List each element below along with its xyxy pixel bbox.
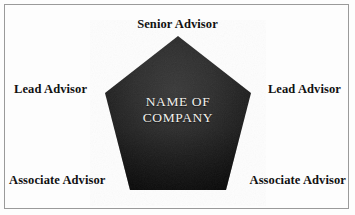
role-label-associate-advisor-right: Associate Advisor <box>250 173 347 187</box>
role-label-senior-advisor: Senior Advisor <box>0 17 355 31</box>
company-name-label: NAME OF COMPANY <box>108 94 248 125</box>
company-name-line-1: NAME OF <box>108 94 248 110</box>
role-label-lead-advisor-left: Lead Advisor <box>14 82 87 96</box>
role-label-lead-advisor-right: Lead Advisor <box>268 82 341 96</box>
diagram-canvas: NAME OF COMPANY Senior Advisor Lead Advi… <box>0 0 355 215</box>
company-name-line-2: COMPANY <box>108 110 248 126</box>
role-label-associate-advisor-left: Associate Advisor <box>9 173 106 187</box>
